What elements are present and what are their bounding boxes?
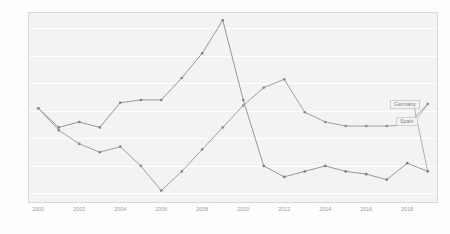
chart-svg (0, 0, 450, 234)
data-point-germany (57, 126, 60, 129)
data-point-germany (344, 170, 347, 173)
data-point-germany (201, 52, 204, 55)
x-axis-tick-label: 2012 (278, 206, 290, 212)
data-point-spain (221, 126, 224, 129)
data-point-germany (303, 170, 306, 173)
data-point-germany (221, 19, 224, 22)
data-point-germany (139, 99, 142, 102)
data-point-spain (283, 78, 286, 81)
data-point-spain (262, 86, 265, 89)
x-axis-tick-label: 2014 (319, 206, 331, 212)
data-point-spain (242, 104, 245, 107)
data-point-germany (119, 101, 122, 104)
x-axis-tick-label: 2000 (32, 206, 44, 212)
data-point-spain (365, 125, 368, 128)
data-point-spain (385, 125, 388, 128)
chart-container: Germany Spain 01234562000200220042006200… (0, 0, 450, 234)
data-point-spain (160, 189, 163, 192)
data-point-spain (180, 170, 183, 173)
data-point-spain (37, 107, 40, 110)
data-point-spain (98, 151, 101, 154)
data-point-germany (242, 99, 245, 102)
x-axis-tick-label: 2004 (114, 206, 126, 212)
data-point-germany (385, 178, 388, 181)
data-point-spain (78, 143, 81, 146)
data-point-germany (98, 126, 101, 129)
legend-item-germany: Germany (390, 100, 420, 109)
data-point-germany (324, 165, 327, 168)
data-point-germany (406, 162, 409, 165)
series-line-spain (38, 79, 428, 190)
x-axis-tick-label: 2006 (155, 206, 167, 212)
data-point-spain (139, 165, 142, 168)
data-point-germany (262, 165, 265, 168)
legend-leader-line (414, 106, 428, 171)
data-point-spain (119, 145, 122, 148)
data-point-germany (160, 99, 163, 102)
data-point-germany (180, 77, 183, 80)
x-axis-tick-label: 2010 (237, 206, 249, 212)
data-point-spain (201, 148, 204, 151)
series-line-germany (38, 20, 428, 179)
data-point-spain (57, 129, 60, 132)
x-axis-tick-label: 2016 (360, 206, 372, 212)
x-axis-tick-label: 2018 (401, 206, 413, 212)
data-point-spain (303, 111, 306, 114)
data-point-spain (324, 121, 327, 124)
data-point-germany (78, 121, 81, 124)
data-point-germany (365, 173, 368, 176)
x-axis-tick-label: 2002 (73, 206, 85, 212)
legend-label-germany: Germany (394, 101, 416, 107)
legend-item-spain: Spain (396, 117, 418, 126)
data-point-spain (344, 125, 347, 128)
x-axis-tick-label: 2008 (196, 206, 208, 212)
legend-label-spain: Spain (400, 118, 414, 124)
data-point-germany (283, 176, 286, 179)
